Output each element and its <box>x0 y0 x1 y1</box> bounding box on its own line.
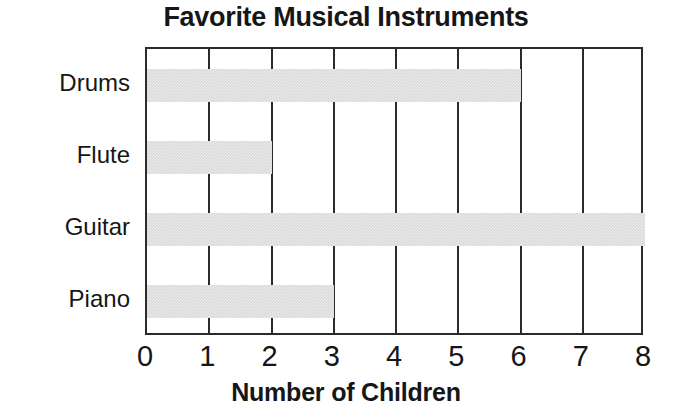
x-tick-3: 3 <box>312 342 352 371</box>
category-label-flute: Flute <box>77 143 130 167</box>
bar-guitar <box>147 213 645 246</box>
plot-area <box>145 47 643 335</box>
x-tick-8: 8 <box>623 342 663 371</box>
x-tick-7: 7 <box>561 342 601 371</box>
bar-chart-figure: Favorite Musical Instruments DrumsFluteG… <box>0 0 692 420</box>
bar-drums <box>147 69 521 102</box>
category-label-piano: Piano <box>69 287 130 311</box>
x-tick-0: 0 <box>125 342 165 371</box>
category-label-guitar: Guitar <box>65 215 130 239</box>
x-tick-6: 6 <box>499 342 539 371</box>
x-axis-title: Number of Children <box>0 378 692 407</box>
x-tick-4: 4 <box>374 342 414 371</box>
bar-piano <box>147 285 334 318</box>
bar-flute <box>147 141 272 174</box>
x-axis-tick-labels: 012345678 <box>145 342 643 378</box>
x-tick-1: 1 <box>187 342 227 371</box>
chart-title: Favorite Musical Instruments <box>0 2 692 33</box>
category-label-drums: Drums <box>59 71 130 95</box>
x-tick-5: 5 <box>436 342 476 371</box>
x-tick-2: 2 <box>250 342 290 371</box>
category-axis-labels: DrumsFluteGuitarPiano <box>0 47 140 335</box>
bars-layer <box>147 49 641 333</box>
